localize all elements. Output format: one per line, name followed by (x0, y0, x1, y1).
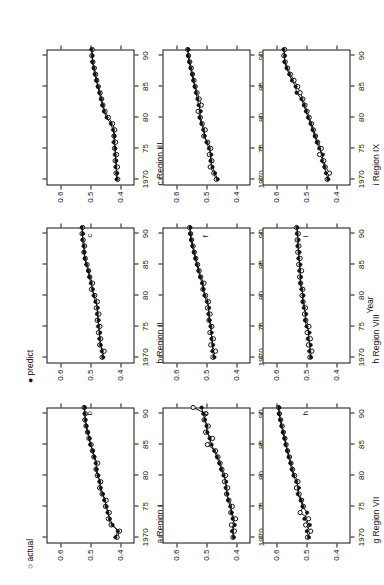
data-point-predict (100, 103, 103, 106)
data-point-predict (306, 337, 309, 340)
y-tick-mark (120, 543, 121, 547)
x-tick-mark (350, 325, 354, 326)
data-point-predict (99, 97, 102, 100)
y-tick-label: 0.5 (85, 369, 94, 389)
y-tick-mark (336, 363, 337, 367)
x-tick-label: 90 (356, 399, 365, 427)
chart-panel-i: 1970758085900.60.50.4i Region IXi (262, 49, 350, 185)
x-tick-mark-top (158, 116, 162, 117)
x-tick-label: 80 (140, 103, 149, 131)
x-tick-mark (134, 294, 138, 295)
x-tick-mark (250, 85, 254, 86)
y-tick-mark (276, 543, 277, 547)
data-point-predict (209, 337, 212, 340)
data-point-predict (217, 461, 220, 464)
legend-item-predict: ●predict (24, 349, 34, 385)
data-point-predict (114, 177, 117, 180)
x-tick-mark-top (258, 147, 262, 148)
x-tick-mark-top (158, 474, 162, 475)
chart-panel-d: 1970758085900.60.50.4d Region IVd (162, 407, 250, 543)
x-tick-mark-top (258, 178, 262, 179)
data-point-predict (302, 517, 305, 520)
data-point-predict (285, 449, 288, 452)
x-tick-mark-top (258, 356, 262, 357)
data-point-predict (296, 256, 299, 259)
y-tick-mark (206, 185, 207, 189)
data-point-predict (287, 72, 290, 75)
series-layer (262, 227, 350, 363)
y-tick-mark (120, 363, 121, 367)
y-tick-mark (276, 363, 277, 367)
x-tick-mark-top (42, 147, 46, 148)
data-point-predict (199, 405, 202, 408)
x-tick-mark (134, 147, 138, 148)
y-tick-mark (120, 185, 121, 189)
x-tick-label: 75 (140, 312, 149, 340)
x-tick-mark-top (158, 147, 162, 148)
y-tick-mark-right (306, 403, 307, 407)
data-point-predict (307, 349, 310, 352)
data-point-predict (206, 312, 209, 315)
data-point-predict (111, 128, 114, 131)
data-point-actual (317, 152, 321, 156)
data-point-predict (293, 84, 296, 87)
y-tick-label: 0.4 (231, 369, 240, 389)
data-point-predict (204, 424, 207, 427)
data-point-predict (201, 128, 204, 131)
x-tick-mark-top (258, 232, 262, 233)
data-point-predict (294, 91, 297, 94)
chart-panel-c: 1970758085900.60.50.4c Region IIIc (46, 49, 134, 185)
data-point-predict (288, 461, 291, 464)
y-tick-label: 0.6 (271, 191, 280, 211)
data-point-predict (196, 103, 199, 106)
data-point-predict (89, 281, 92, 284)
x-tick-mark (350, 294, 354, 295)
series-line-actual (84, 407, 119, 537)
data-point-predict (189, 238, 192, 241)
x-tick-label: 85 (356, 430, 365, 458)
x-tick-label: 75 (140, 134, 149, 162)
y-tick-mark-right (60, 223, 61, 227)
x-tick-mark-top (158, 232, 162, 233)
y-tick-mark (306, 363, 307, 367)
data-point-predict (83, 256, 86, 259)
x-tick-mark (134, 178, 138, 179)
x-tick-mark (250, 54, 254, 55)
y-tick-mark (276, 185, 277, 189)
y-tick-mark-right (60, 45, 61, 49)
y-tick-mark (336, 185, 337, 189)
x-tick-mark (250, 536, 254, 537)
x-tick-label: 80 (356, 103, 365, 131)
legend-label-predict: predict (24, 349, 34, 375)
data-point-predict (91, 293, 94, 296)
y-tick-mark (176, 185, 177, 189)
data-point-predict (290, 78, 293, 81)
x-tick-mark-top (42, 474, 46, 475)
series-line-actual (193, 407, 235, 537)
x-tick-mark (250, 263, 254, 264)
y-tick-mark-right (336, 223, 337, 227)
data-point-predict (306, 115, 309, 118)
data-point-predict (279, 424, 282, 427)
legend-label-actual: actual (24, 538, 34, 561)
data-point-predict (84, 262, 87, 265)
data-point-predict (100, 349, 103, 352)
data-point-predict (104, 115, 107, 118)
panel-caption-h: h Region VIII (370, 314, 380, 363)
data-point-predict (317, 146, 320, 149)
x-tick-mark (250, 325, 254, 326)
x-tick-mark-top (258, 325, 262, 326)
data-point-predict (96, 84, 99, 87)
x-tick-label: 85 (140, 72, 149, 100)
x-tick-mark (250, 294, 254, 295)
data-point-predict (195, 262, 198, 265)
x-axis-title: Year (364, 296, 374, 313)
y-tick-mark-right (206, 45, 207, 49)
y-tick-label: 0.6 (55, 369, 64, 389)
y-tick-label: 0.6 (55, 549, 64, 569)
data-point-predict (187, 60, 190, 63)
data-point-predict (315, 140, 318, 143)
x-tick-mark-top (258, 263, 262, 264)
data-point-predict (282, 436, 285, 439)
data-point-predict (223, 486, 226, 489)
